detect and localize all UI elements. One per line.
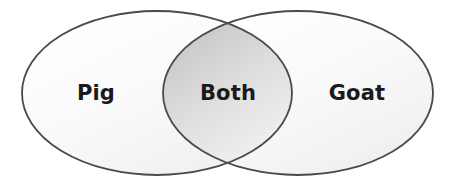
venn-diagram-canvas: Pig Both Goat	[0, 0, 457, 186]
intersection-label: Both	[200, 81, 256, 105]
venn-diagram-svg: Pig Both Goat	[0, 0, 457, 186]
left-set-label: Pig	[77, 81, 115, 105]
right-set-label: Goat	[329, 81, 386, 105]
